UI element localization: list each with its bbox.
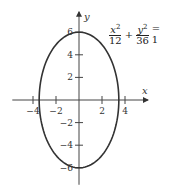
equation-rhs: = 1 (152, 23, 169, 45)
plus-sign: + (125, 29, 133, 40)
fraction-y: y2 36 (136, 22, 149, 46)
fraction-x: x2 12 (109, 22, 122, 46)
y-axis-label: y (83, 11, 90, 22)
x-tick-label: −2 (49, 106, 62, 116)
x-axis-label: x (142, 85, 148, 96)
y-tick-label: 2 (67, 72, 73, 82)
x-tick-label: 4 (122, 106, 128, 116)
x-tick-label: −4 (26, 106, 40, 116)
x-tick-label: 2 (99, 106, 105, 116)
y-tick-label: 6 (67, 27, 73, 37)
y-tick-label: −2 (60, 118, 73, 128)
ellipse-equation: x2 12 + y2 36 = 1 (108, 22, 171, 46)
y-tick-label: −4 (60, 140, 74, 150)
y-tick-label: 4 (67, 50, 73, 60)
